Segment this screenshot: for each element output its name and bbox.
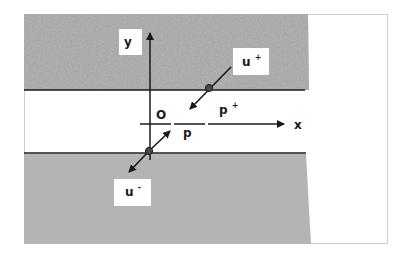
y-axis-label: y <box>124 35 132 49</box>
p-plus-base: p <box>219 103 228 117</box>
interface-diagram: y x O p p + u + u - <box>0 0 409 253</box>
p-point-marker <box>145 147 152 154</box>
u-plus-base: u <box>242 55 251 69</box>
u-plus-superscript: + <box>255 53 262 62</box>
u-minus-superscript: - <box>138 183 141 192</box>
p-plus-point-marker <box>205 84 212 91</box>
lower-material-region <box>24 154 311 244</box>
origin-label: O <box>156 108 166 122</box>
p-plus-superscript: + <box>232 101 239 110</box>
x-axis-label: x <box>294 118 302 132</box>
u-minus-base: u <box>125 185 134 199</box>
p-label: p <box>183 126 192 140</box>
